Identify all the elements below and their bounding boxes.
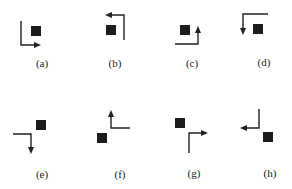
panel-h: (h) [240, 109, 277, 180]
square-marker [36, 120, 46, 130]
panel-f: (f) [97, 110, 130, 181]
panel-label: (e) [36, 168, 49, 181]
panel-g: (g) [175, 118, 208, 180]
square-marker [31, 26, 41, 36]
square-marker [175, 118, 185, 128]
square-marker [106, 25, 116, 35]
arrow-down-icon [240, 28, 246, 35]
arrow-left-icon [105, 12, 112, 18]
square-marker [97, 133, 107, 143]
panel-label: (h) [264, 167, 277, 180]
arrow-right-icon [201, 130, 208, 136]
panel-c: (c) [175, 25, 201, 70]
path-line [246, 109, 259, 128]
panel-label: (f) [115, 168, 126, 181]
square-marker [253, 24, 263, 34]
arrow-up-icon [108, 110, 114, 117]
panel-b: (b) [105, 12, 124, 70]
arrow-right-icon [34, 42, 41, 48]
path-line [189, 133, 202, 153]
arrow-down-icon [28, 147, 34, 154]
panel-label: (c) [186, 57, 199, 70]
panel-a: (a) [21, 21, 48, 70]
square-marker [180, 25, 190, 35]
path-line [13, 134, 31, 148]
square-marker [263, 132, 273, 142]
arrow-left-icon [240, 125, 247, 131]
panel-label: (a) [36, 57, 49, 70]
panel-e: (e) [13, 120, 48, 181]
arrow-up-icon [195, 26, 201, 33]
path-line [111, 116, 130, 128]
panel-label: (b) [109, 57, 122, 70]
panel-label: (g) [188, 167, 201, 180]
panel-d: (d) [240, 14, 271, 69]
panel-label: (d) [258, 56, 271, 69]
diagram-canvas: (a) (b) (c) (d) (e) (f) (g) [0, 0, 292, 189]
